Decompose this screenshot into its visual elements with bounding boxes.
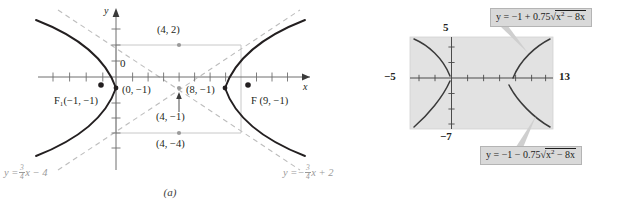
- right-asymptote-var: x: [311, 167, 316, 178]
- lower-branch-callout: y = −1 − 0.75√x2 − 8x: [480, 146, 582, 165]
- lower-radicand-exp: 2: [551, 148, 555, 156]
- label-left-focus: F₁(−1, −1): [54, 96, 98, 107]
- label-left-asymptote: y =34x − 4: [4, 164, 47, 180]
- upper-branch-callout: y = −1 + 0.75√x2 − 8x: [490, 8, 592, 27]
- upper-callout-lhs: y = −1 + 0.75: [496, 11, 550, 22]
- label-point-4-2: (4, 2): [157, 25, 180, 36]
- panel-b: 5 −5 13 −7 y = −1 + 0.75√x2 − 8x y = −1 …: [340, 0, 624, 207]
- screen-ymax-label: 5: [443, 22, 449, 33]
- screen-xmin-label: −5: [384, 71, 396, 82]
- label-point-4-neg4: (4, −4): [156, 139, 185, 150]
- panel-b-graphic: [340, 0, 624, 207]
- x-axis: [38, 73, 310, 82]
- label-left-vertex: (0, −1): [122, 85, 151, 96]
- upper-callout-radical: √x2 − 8x: [550, 12, 586, 22]
- point-4-neg4: [177, 131, 181, 135]
- figure-container: x y 0 (4, 2) (4, −1) (4, −4) (0, −1) (8,…: [0, 0, 624, 207]
- left-asymptote-prefix: y =: [4, 167, 18, 178]
- point-right-focus: [245, 82, 251, 88]
- panel-a: x y 0 (4, 2) (4, −1) (4, −4) (0, −1) (8,…: [0, 0, 340, 207]
- x-axis-arrow: [302, 74, 310, 81]
- point-4-neg1-center: [177, 86, 181, 90]
- center-callout-arrow: [176, 92, 182, 112]
- point-left-vertex: [114, 86, 119, 91]
- lower-callout-radical: √x2 − 8x: [540, 150, 576, 160]
- x-axis-label: x: [303, 82, 307, 92]
- upper-radicand-exp: 2: [561, 10, 565, 18]
- screen-ymin-label: −7: [440, 131, 452, 142]
- right-asymptote-prefix: y =: [283, 167, 297, 178]
- left-asymptote-fraction: 34: [19, 164, 25, 180]
- left-asymptote-var: x: [25, 167, 30, 178]
- label-right-focus: F (9, −1): [251, 96, 288, 107]
- panel-a-caption: (a): [140, 186, 200, 198]
- right-branch: [225, 20, 305, 156]
- y-axis-label: y: [104, 6, 108, 16]
- screen-xmax-label: 13: [559, 71, 570, 82]
- y-axis-arrow: [113, 8, 120, 17]
- right-asymptote-fraction: 34: [305, 164, 311, 180]
- label-right-asymptote: y =−34x + 2: [283, 164, 333, 180]
- upper-radicand-rest: − 8x: [567, 11, 585, 22]
- lower-radicand-rest: − 8x: [557, 149, 575, 160]
- origin-label: 0: [120, 58, 126, 69]
- right-asymptote-intercept: + 2: [319, 167, 334, 178]
- left-asymptote-intercept: − 4: [32, 167, 47, 178]
- right-asymptote-sign: −: [297, 167, 304, 178]
- label-right-vertex: (8, −1): [186, 85, 215, 96]
- lower-callout-lhs: y = −1 − 0.75: [486, 149, 540, 160]
- hyperbola-curves: [36, 20, 305, 156]
- label-point-4-neg1: (4, −1): [156, 112, 185, 123]
- point-right-vertex: [223, 86, 228, 91]
- point-4-2: [177, 43, 181, 47]
- point-left-focus: [98, 82, 104, 88]
